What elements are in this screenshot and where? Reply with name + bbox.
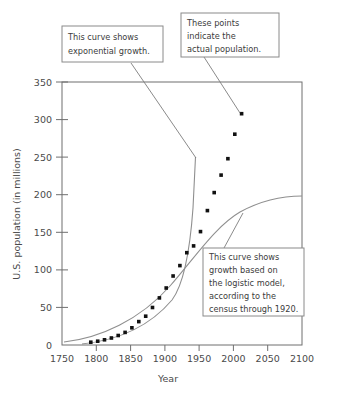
logistic-callout-line-5: census through 1920. xyxy=(209,304,298,314)
data-point xyxy=(206,209,210,213)
exponential-callout-line-2: exponential growth. xyxy=(68,46,150,56)
x-tick-label-2050: 2050 xyxy=(256,353,280,364)
exponential-callout-leader xyxy=(131,63,196,158)
data-point xyxy=(144,314,148,318)
data-point xyxy=(185,251,189,255)
data-point xyxy=(96,339,100,343)
data-point xyxy=(233,132,237,136)
y-axis-title: U.S. population (in millions) xyxy=(11,148,22,279)
data-point xyxy=(89,340,93,344)
x-tick-label-1900: 1900 xyxy=(153,353,177,364)
data-point xyxy=(137,320,141,324)
actual-points-callout-line-3: actual population. xyxy=(187,44,261,54)
logistic-callout-line-4: according to the xyxy=(209,291,276,301)
data-point xyxy=(171,274,175,278)
actual-points-callout-line-2: indicate the xyxy=(187,31,236,41)
logistic-callout-leader xyxy=(224,213,243,248)
data-point xyxy=(164,286,168,290)
logistic-callout-line-3: the logistic model, xyxy=(209,278,285,288)
x-tick-label-1800: 1800 xyxy=(84,353,108,364)
data-point xyxy=(219,173,223,177)
data-point xyxy=(116,334,120,338)
y-axis-tick-labels: 350 300 250 200 150 100 50 0 xyxy=(34,77,52,351)
x-tick-label-2100: 2100 xyxy=(290,353,314,364)
data-point xyxy=(212,191,216,195)
actual-points-callout-leader xyxy=(204,57,240,113)
exponential-growth-curve xyxy=(82,157,196,344)
y-tick-label-0: 0 xyxy=(46,340,52,351)
data-point xyxy=(192,244,196,248)
y-tick-label-300: 300 xyxy=(34,114,52,125)
x-tick-label-1950: 1950 xyxy=(187,353,211,364)
population-growth-chart: 350 300 250 200 150 100 50 0 1750 1800 1… xyxy=(0,0,339,412)
data-point xyxy=(240,112,244,116)
logistic-callout[interactable]: This curve shows growth based on the log… xyxy=(203,248,304,316)
data-point xyxy=(130,326,134,330)
data-point xyxy=(110,336,114,340)
y-tick-label-350: 350 xyxy=(34,77,52,88)
x-tick-label-2000: 2000 xyxy=(221,353,245,364)
data-point xyxy=(226,157,230,161)
y-tick-label-50: 50 xyxy=(40,302,52,313)
data-point xyxy=(158,296,162,300)
exponential-callout[interactable]: This curve shows exponential growth. xyxy=(62,26,163,62)
x-tick-label-1750: 1750 xyxy=(50,353,74,364)
y-tick-label-250: 250 xyxy=(34,152,52,163)
data-point xyxy=(178,264,182,268)
x-tick-label-1850: 1850 xyxy=(119,353,143,364)
y-tick-label-200: 200 xyxy=(34,189,52,200)
data-point xyxy=(151,306,155,310)
data-point xyxy=(123,331,127,335)
exponential-callout-line-1: This curve shows xyxy=(67,32,138,42)
y-tick-label-150: 150 xyxy=(34,227,52,238)
actual-points-callout-line-1: These points xyxy=(186,18,239,28)
x-axis-title: Year xyxy=(157,373,178,384)
logistic-callout-line-2: growth based on xyxy=(209,265,278,275)
x-axis-tick-labels: 1750 1800 1850 1900 1950 2000 2050 2100 xyxy=(50,353,314,364)
data-point xyxy=(103,338,107,342)
data-point xyxy=(199,230,203,234)
x-axis-ticks xyxy=(96,345,267,351)
actual-points-callout[interactable]: These points indicate the actual populat… xyxy=(181,13,279,57)
y-tick-label-100: 100 xyxy=(34,264,52,275)
logistic-callout-line-1: This curve shows xyxy=(208,252,279,262)
